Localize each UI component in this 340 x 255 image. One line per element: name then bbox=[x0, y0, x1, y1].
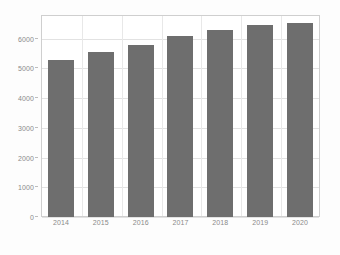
y-axis-tick-mark bbox=[35, 157, 38, 158]
bar-slot bbox=[81, 15, 121, 217]
y-axis-tick-mark bbox=[35, 216, 38, 217]
x-axis-tick-label: 2016 bbox=[133, 219, 149, 226]
x-axis-tick-label: 2015 bbox=[93, 219, 109, 226]
bar-slot bbox=[240, 15, 280, 217]
y-axis-tick-label: 1000 bbox=[18, 184, 34, 191]
y-axis-tick-mark bbox=[35, 186, 38, 187]
y-axis-tick-label: 4000 bbox=[18, 95, 34, 102]
bar-2014[interactable] bbox=[48, 60, 74, 217]
y-axis-tick-mark bbox=[35, 38, 38, 39]
y-axis: 0100020003000400050006000 bbox=[0, 15, 38, 217]
bars-layer bbox=[41, 15, 320, 217]
bar-slot bbox=[280, 15, 320, 217]
bar-2018[interactable] bbox=[207, 30, 233, 217]
gridline-horizontal bbox=[42, 217, 319, 218]
x-axis: 2014201520162017201820192020 bbox=[41, 219, 320, 233]
bar-slot bbox=[161, 15, 201, 217]
bar-2016[interactable] bbox=[128, 45, 154, 217]
y-axis-tick-label: 5000 bbox=[18, 65, 34, 72]
bar-slot bbox=[200, 15, 240, 217]
bar-2019[interactable] bbox=[247, 25, 273, 217]
bar-chart: 0100020003000400050006000 20142015201620… bbox=[0, 0, 340, 255]
x-axis-tick-label: 2017 bbox=[173, 219, 189, 226]
bar-slot bbox=[121, 15, 161, 217]
y-axis-tick-mark bbox=[35, 97, 38, 98]
x-axis-tick-label: 2014 bbox=[53, 219, 69, 226]
y-axis-tick-label: 6000 bbox=[18, 35, 34, 42]
y-axis-tick-label: 0 bbox=[30, 214, 34, 221]
y-axis-tick-label: 3000 bbox=[18, 124, 34, 131]
y-axis-tick-label: 2000 bbox=[18, 154, 34, 161]
x-axis-tick-label: 2020 bbox=[292, 219, 308, 226]
y-axis-tick-mark bbox=[35, 67, 38, 68]
x-axis-tick-label: 2018 bbox=[212, 219, 228, 226]
x-axis-tick-label: 2019 bbox=[252, 219, 268, 226]
bar-slot bbox=[41, 15, 81, 217]
y-axis-tick-mark bbox=[35, 127, 38, 128]
bar-2015[interactable] bbox=[88, 52, 114, 217]
bar-2020[interactable] bbox=[287, 23, 313, 217]
bar-2017[interactable] bbox=[167, 36, 193, 217]
